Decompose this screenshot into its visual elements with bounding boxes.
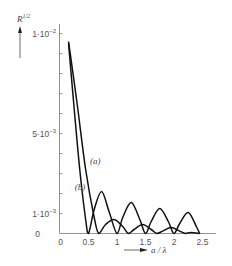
y-tick-label: 1·10−3 [32, 208, 57, 219]
x-tick-labels: 00.511.522.5 [58, 237, 209, 247]
y-tick-label: 5·10−3 [32, 128, 57, 139]
x-axis-label: a / λ [151, 245, 167, 255]
y-ticks [60, 34, 63, 214]
y-tick-label: 1·10−2 [32, 28, 57, 39]
x-tick-label: 1 [115, 237, 120, 247]
y-axis-arrow-icon [18, 26, 22, 58]
series-line-b [69, 44, 200, 234]
curve-label: (b) [75, 182, 86, 192]
y-axis-label: R1/2 [16, 13, 30, 24]
x-axis-arrow-icon [124, 248, 148, 252]
curve-label: (a) [90, 156, 101, 166]
chart: R1/2 1·10−25·10−31·10−30 00.511.522.5 (a… [0, 0, 232, 266]
y-tick-labels: 1·10−25·10−31·10−30 [32, 28, 57, 239]
series [69, 42, 200, 234]
x-tick-label: 0 [58, 237, 63, 247]
x-tick-label: 0.5 [83, 237, 95, 247]
x-tick-label: 2.5 [197, 237, 209, 247]
x-tick-label: 1.5 [140, 237, 152, 247]
x-tick-label: 2 [172, 237, 177, 247]
y-tick-label: 0 [35, 229, 40, 239]
